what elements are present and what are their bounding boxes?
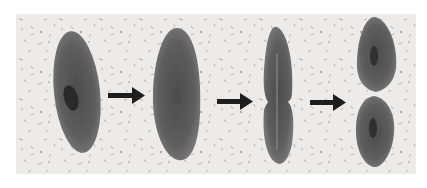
micrograph-figure — [16, 14, 416, 174]
